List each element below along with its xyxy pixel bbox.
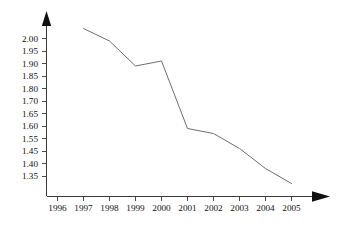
y-tick-label: 1.90	[22, 59, 38, 69]
x-tick-label: 1999	[126, 203, 145, 213]
y-tick-label: 1.80	[22, 84, 38, 94]
y-tick-label: 1.85	[22, 71, 38, 81]
y-axis-tick-labels: 2.00 1.95 1.90 1.85 1.80 1.70 1.65 1.60 …	[22, 34, 38, 182]
y-axis-ticks	[42, 39, 47, 177]
y-tick-label: 1.65	[22, 109, 38, 119]
chart-canvas: 2.00 1.95 1.90 1.85 1.80 1.70 1.65 1.60 …	[0, 0, 345, 228]
x-tick-label: 1998	[100, 203, 119, 213]
y-axis-group: 2.00 1.95 1.90 1.85 1.80 1.70 1.65 1.60 …	[22, 11, 51, 196]
y-tick-label: 1.55	[22, 134, 38, 144]
y-tick-label: 1.45	[22, 146, 38, 156]
x-axis-ticks	[58, 197, 292, 201]
x-tick-label: 2000	[152, 203, 171, 213]
x-tick-label: 2003	[230, 203, 249, 213]
y-tick-label: 2.00	[22, 34, 38, 44]
y-tick-label: 1.95	[22, 46, 38, 56]
x-axis-group: 1996 1997 1998 1999 2000 2001 2002 2003 …	[47, 191, 331, 213]
x-tick-label: 2005	[282, 203, 301, 213]
y-tick-label: 1.70	[22, 96, 38, 106]
line-chart: 2.00 1.95 1.90 1.85 1.80 1.70 1.65 1.60 …	[0, 0, 345, 228]
y-tick-label: 1.60	[22, 121, 38, 131]
data-series-line	[84, 29, 292, 184]
y-tick-label: 1.35	[22, 171, 38, 181]
x-tick-label: 2004	[256, 203, 275, 213]
x-tick-label: 1996	[48, 203, 67, 213]
y-tick-label: 1.40	[22, 159, 38, 169]
y-axis-arrow-head	[42, 11, 51, 26]
x-axis-tick-labels: 1996 1997 1998 1999 2000 2001 2002 2003 …	[48, 203, 301, 213]
x-tick-label: 2001	[178, 203, 197, 213]
x-tick-label: 2002	[204, 203, 223, 213]
x-axis-arrow-head	[312, 191, 330, 201]
x-tick-label: 1997	[74, 203, 93, 213]
